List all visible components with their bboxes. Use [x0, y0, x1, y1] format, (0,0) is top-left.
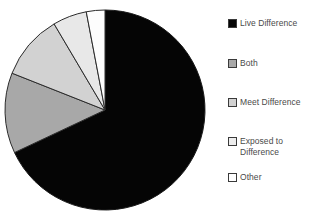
legend-item-other[interactable]: Other — [228, 172, 319, 183]
legend-swatch-live-difference — [228, 19, 237, 28]
pie-slice-group — [5, 10, 205, 210]
legend-item-exposed-to-difference[interactable]: Exposed to Difference — [228, 136, 319, 157]
pie-chart-svg — [0, 0, 218, 218]
legend-label-live-difference: Live Difference — [240, 18, 297, 29]
chart-legend: Live Difference Both Meet Difference Exp… — [228, 14, 319, 210]
legend-swatch-meet-difference — [228, 98, 237, 107]
legend-swatch-other — [228, 173, 237, 182]
pie-chart-figure: Live Difference Both Meet Difference Exp… — [0, 0, 319, 218]
legend-label-exposed-to-difference: Exposed to Difference — [240, 136, 283, 157]
legend-label-other: Other — [240, 172, 262, 183]
legend-item-meet-difference[interactable]: Meet Difference — [228, 97, 319, 108]
legend-label-meet-difference: Meet Difference — [240, 97, 301, 108]
legend-item-both[interactable]: Both — [228, 58, 319, 69]
pie-chart-plot-area — [0, 0, 218, 218]
legend-item-live-difference[interactable]: Live Difference — [228, 18, 319, 29]
legend-swatch-both — [228, 59, 237, 68]
legend-label-both: Both — [240, 58, 258, 69]
legend-swatch-exposed-to-difference — [228, 137, 237, 146]
